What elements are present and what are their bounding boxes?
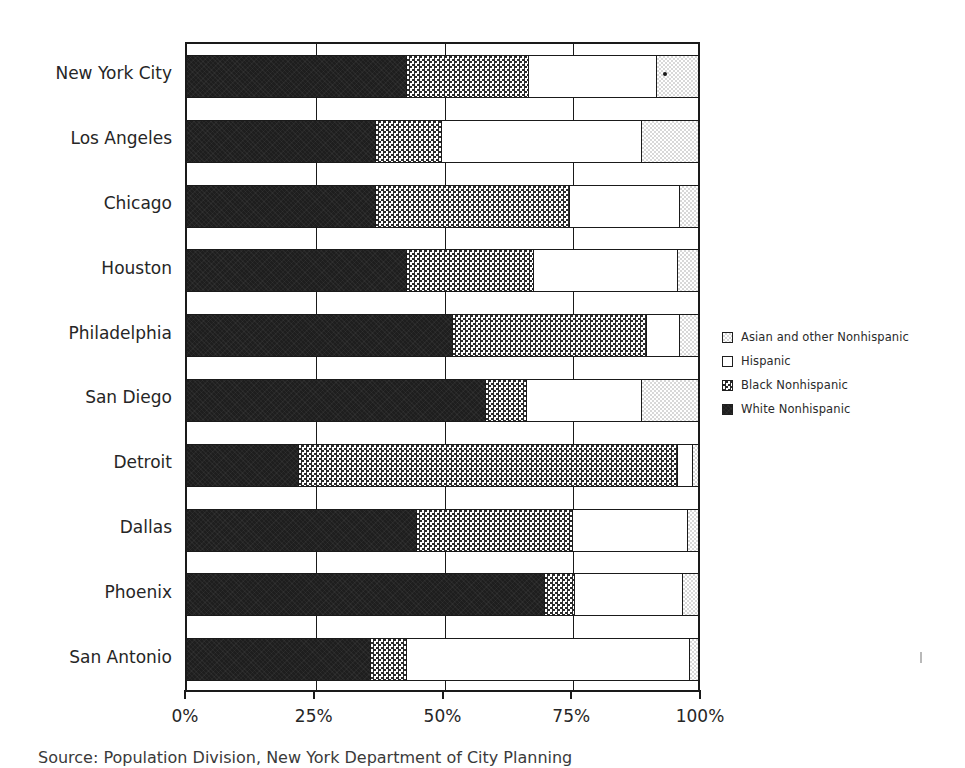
legend-item: Black Nonhispanic	[722, 374, 952, 396]
plot-area	[185, 42, 700, 690]
bar-segment	[187, 574, 545, 615]
bar-segment	[693, 445, 698, 486]
legend-item: White Nonhispanic	[722, 398, 952, 420]
bar-row	[187, 638, 698, 681]
axis-tick-label: 50%	[424, 706, 462, 726]
bar-segment	[642, 121, 698, 162]
legend-item: Asian and other Nonhispanic	[722, 326, 952, 348]
bar-segment	[680, 315, 698, 356]
stacked-bar	[187, 185, 698, 228]
bar-segment	[187, 510, 417, 551]
stacked-bar	[187, 120, 698, 163]
bar-segment	[534, 250, 677, 291]
bar-segment	[680, 186, 698, 227]
bar-segment	[453, 315, 647, 356]
category-label: New York City	[2, 63, 172, 83]
stacked-bar	[187, 314, 698, 357]
category-axis-labels: New York CityLos AngelesChicagoHoustonPh…	[0, 42, 172, 690]
bar-segment	[657, 56, 698, 97]
legend-swatch-icon	[722, 380, 733, 391]
bar-segment	[442, 121, 641, 162]
legend-label: Black Nonhispanic	[741, 378, 848, 392]
axis-tick	[442, 690, 444, 699]
category-label: Philadelphia	[2, 323, 172, 343]
category-label: Dallas	[2, 517, 172, 537]
value-axis	[185, 690, 700, 692]
category-label: Detroit	[2, 452, 172, 472]
bar-row	[187, 573, 698, 616]
bar-segment	[529, 56, 657, 97]
category-label: Los Angeles	[2, 128, 172, 148]
bar-row	[187, 120, 698, 163]
axis-tick	[184, 690, 186, 699]
legend-swatch-icon	[722, 332, 733, 343]
legend-item: Hispanic	[722, 350, 952, 372]
axis-tick	[699, 690, 701, 699]
chart-legend: Asian and other NonhispanicHispanicBlack…	[722, 326, 952, 422]
bar-segment	[527, 380, 642, 421]
bar-segment	[545, 574, 576, 615]
bar-segment	[573, 510, 688, 551]
legend-swatch-icon	[722, 404, 733, 415]
stacked-bar	[187, 55, 698, 98]
bar-segment	[642, 380, 698, 421]
axis-tick-label: 0%	[172, 706, 199, 726]
bar-segment	[683, 574, 698, 615]
bar-segment	[690, 639, 698, 680]
bar-row	[187, 509, 698, 552]
bar-segment	[371, 639, 407, 680]
bar-row	[187, 185, 698, 228]
legend-label: White Nonhispanic	[741, 402, 850, 416]
bar-row	[187, 314, 698, 357]
bar-segment	[187, 250, 407, 291]
axis-tick	[570, 690, 572, 699]
bar-segment	[417, 510, 573, 551]
bar-segment	[407, 250, 535, 291]
category-label: Chicago	[2, 193, 172, 213]
bar-segment	[187, 315, 453, 356]
bar-segment	[187, 121, 376, 162]
bar-segment	[187, 380, 486, 421]
bar-segment	[647, 315, 680, 356]
scan-artifact	[920, 652, 922, 663]
bar-segment	[187, 445, 299, 486]
bar-row	[187, 444, 698, 487]
bar-segment	[678, 445, 693, 486]
bar-segment	[407, 56, 530, 97]
bar-segment	[678, 250, 698, 291]
axis-tick-label: 25%	[295, 706, 333, 726]
stacked-bar-chart-figure: New York CityLos AngelesChicagoHoustonPh…	[0, 0, 965, 768]
category-label: San Antonio	[2, 647, 172, 667]
bar-segment	[376, 186, 570, 227]
category-label: San Diego	[2, 387, 172, 407]
bar-segment	[407, 639, 691, 680]
legend-swatch-icon	[722, 356, 733, 367]
axis-tick	[313, 690, 315, 699]
legend-label: Asian and other Nonhispanic	[741, 330, 909, 344]
category-label: Phoenix	[2, 582, 172, 602]
stacked-bar	[187, 249, 698, 292]
bar-segment	[187, 56, 407, 97]
bar-segment	[570, 186, 680, 227]
scan-artifact	[663, 72, 667, 76]
stacked-bar	[187, 638, 698, 681]
category-label: Houston	[2, 258, 172, 278]
bar-segment	[187, 639, 371, 680]
axis-tick-label: 100%	[676, 706, 725, 726]
bar-segment	[688, 510, 698, 551]
stacked-bar	[187, 444, 698, 487]
bar-row	[187, 55, 698, 98]
axis-tick-label: 75%	[552, 706, 590, 726]
bar-segment	[486, 380, 527, 421]
bar-row	[187, 249, 698, 292]
bar-segment	[299, 445, 677, 486]
source-caption: Source: Population Division, New York De…	[38, 748, 572, 767]
bar-segment	[376, 121, 442, 162]
bar-segment	[187, 186, 376, 227]
stacked-bar	[187, 379, 698, 422]
bar-segment	[575, 574, 682, 615]
stacked-bar	[187, 573, 698, 616]
bar-row	[187, 379, 698, 422]
legend-label: Hispanic	[741, 354, 791, 368]
stacked-bar	[187, 509, 698, 552]
